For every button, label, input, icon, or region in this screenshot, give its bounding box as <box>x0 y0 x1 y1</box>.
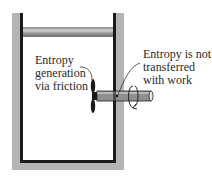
label-entropy-generation: Entropy generation via friction <box>35 54 88 93</box>
diagram-graphics <box>0 0 212 176</box>
label-entropy-not-transferred: Entropy is not transferred with work <box>143 48 211 87</box>
label-line: with work <box>143 74 211 87</box>
paddle-wheel <box>91 79 97 113</box>
rotating-shaft <box>97 91 153 101</box>
label-line: via friction <box>35 80 88 93</box>
